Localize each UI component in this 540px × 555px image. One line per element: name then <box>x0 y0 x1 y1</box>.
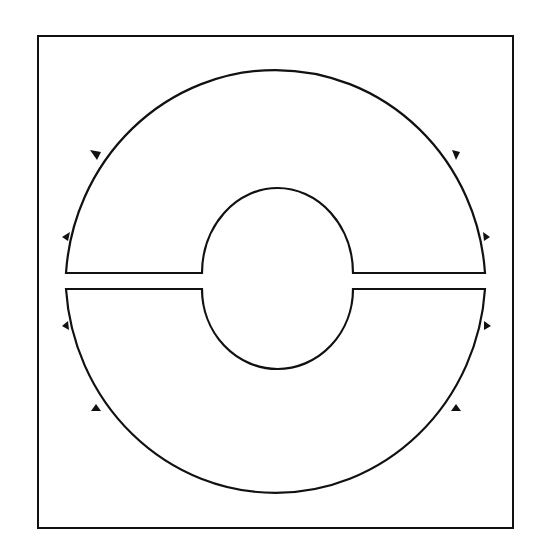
arrowhead-icon <box>62 232 70 241</box>
upper-arrowheads <box>62 150 490 241</box>
upper-contour <box>66 70 485 273</box>
lower-contour <box>66 289 485 493</box>
arrowhead-icon <box>483 232 490 241</box>
arrowhead-icon <box>91 404 101 411</box>
arrowhead-icon <box>452 150 460 160</box>
contour-diagram <box>0 0 540 555</box>
lower-arrowheads <box>62 321 491 411</box>
arrowhead-icon <box>484 321 491 330</box>
bounding-frame <box>38 36 513 528</box>
arrowhead-icon <box>451 404 461 411</box>
arrowhead-icon <box>90 150 101 160</box>
arrowhead-icon <box>62 321 69 330</box>
